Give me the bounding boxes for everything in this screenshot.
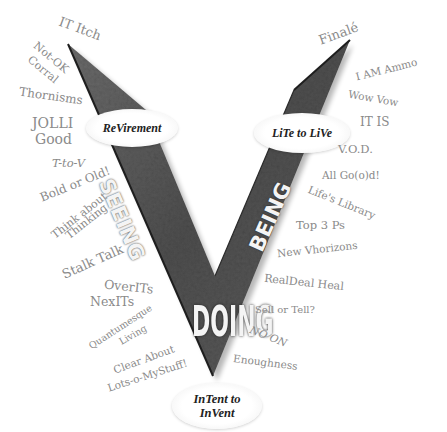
word-nexits: NexITs	[90, 295, 134, 308]
oval-revirement-label: ReVirement	[103, 121, 162, 136]
word-top-3-ps: Top 3 Ps	[296, 219, 345, 231]
word-it-is: IT IS	[360, 116, 390, 129]
oval-intent-line1: InTent to	[193, 392, 240, 406]
v-diagram: SEEING BEING DOING ReVirement LiTe to Li…	[0, 0, 447, 432]
word-jolli: JOLLI	[32, 116, 73, 131]
word-t-to-v: T-to-V	[52, 157, 85, 169]
oval-lite-to-live: LiTe to LiVe	[254, 113, 350, 153]
word-sell-or-tell: Sell or Tell?	[255, 305, 315, 316]
oval-lite-to-live-label: LiTe to LiVe	[272, 126, 332, 141]
oval-intent-to-invent: InTent to InVent	[172, 383, 262, 429]
word-vod: V.O.D.	[338, 143, 373, 155]
word-all-good: All Go(o)d!	[322, 170, 380, 181]
word-good: Good	[35, 132, 72, 147]
oval-intent-line2: InVent	[200, 406, 235, 420]
oval-revirement: ReVirement	[86, 109, 178, 147]
